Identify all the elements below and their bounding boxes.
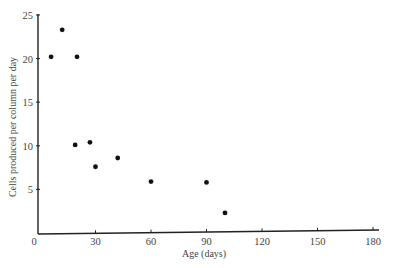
x-tick-label: 90 <box>201 236 212 247</box>
data-points <box>49 27 228 215</box>
y-tick-label: 10 <box>23 141 34 152</box>
axes <box>38 14 379 234</box>
data-point <box>223 211 228 216</box>
y-tick-label: 15 <box>23 97 34 108</box>
scatter-chart: 510152025 0306090120150180 Age (days) Ce… <box>0 0 395 268</box>
data-point <box>60 27 65 32</box>
data-point <box>149 179 154 184</box>
y-tick-label: 25 <box>23 10 34 21</box>
x-tick-label: 180 <box>365 236 381 247</box>
data-point <box>204 180 209 185</box>
data-point <box>73 143 78 148</box>
x-tick-label: 120 <box>254 236 270 247</box>
x-tick-label: 0 <box>31 236 36 247</box>
x-axis-label: Age (days) <box>182 248 226 260</box>
x-tick-label: 60 <box>146 236 157 247</box>
data-point <box>115 156 120 161</box>
data-point <box>75 54 80 59</box>
y-tick-label: 20 <box>23 54 34 65</box>
data-point <box>49 54 54 59</box>
x-tick-label: 30 <box>90 236 101 247</box>
y-tick-label: 5 <box>28 184 33 195</box>
data-point <box>88 140 93 145</box>
y-axis-label: Cells produced per column per day <box>7 57 18 197</box>
data-point <box>93 164 98 169</box>
x-axis-line <box>38 230 379 234</box>
x-tick-label: 150 <box>310 236 326 247</box>
